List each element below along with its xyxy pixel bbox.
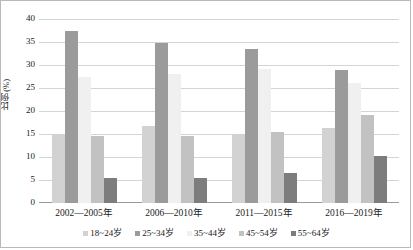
x-tick-label: 2011—2015年 (219, 207, 309, 219)
bar (181, 136, 194, 203)
x-tick-label: 2016—2019年 (309, 207, 399, 219)
x-tick-label: 2002—2005年 (39, 207, 129, 219)
bar (348, 83, 361, 203)
y-tick-label: 35 (9, 37, 35, 46)
legend-item[interactable]: 25~34岁 (135, 228, 174, 238)
bar (91, 136, 104, 203)
x-tick-label: 2006—2010年 (129, 207, 219, 219)
y-tick-label: 30 (9, 60, 35, 69)
bar-group (129, 19, 219, 203)
legend-swatch-icon (291, 231, 296, 236)
bar (65, 31, 78, 204)
x-axis-tick-labels: 2002—2005年2006—2010年2011—2015年2016—2019年 (39, 207, 399, 223)
legend-label: 25~34岁 (142, 228, 174, 238)
legend-label: 18~24岁 (90, 228, 122, 238)
bar (194, 178, 207, 203)
legend-swatch-icon (83, 231, 88, 236)
chart-legend: 18~24岁25~34岁35~44岁45~54岁55~64岁 (1, 228, 412, 238)
bar (258, 69, 271, 203)
plot-area (39, 19, 399, 203)
bar (104, 178, 117, 203)
legend-swatch-icon (239, 231, 244, 236)
bar (271, 132, 284, 203)
y-tick-label: 40 (9, 14, 35, 23)
bar-chart: 比例(%) 0510152025303540 2002—2005年2006—20… (0, 0, 411, 248)
legend-item[interactable]: 18~24岁 (83, 228, 122, 238)
legend-label: 35~44岁 (194, 228, 226, 238)
bar (78, 77, 91, 203)
bar (361, 115, 374, 203)
legend-item[interactable]: 45~54岁 (239, 228, 278, 238)
bar-group (219, 19, 309, 203)
bar (284, 173, 297, 203)
y-tick-label: 15 (9, 129, 35, 138)
y-tick-label: 0 (9, 198, 35, 207)
y-tick-label: 10 (9, 152, 35, 161)
y-tick-label: 20 (9, 106, 35, 115)
bar-group (309, 19, 399, 203)
y-tick-label: 5 (9, 175, 35, 184)
legend-swatch-icon (135, 231, 140, 236)
bar (168, 74, 181, 203)
bar (52, 134, 65, 203)
legend-swatch-icon (187, 231, 192, 236)
y-tick-label: 25 (9, 83, 35, 92)
bar (142, 126, 155, 203)
bar (322, 128, 335, 203)
bar (374, 156, 387, 203)
bar (335, 70, 348, 203)
bar (232, 134, 245, 203)
bar-group (39, 19, 129, 203)
bar (155, 43, 168, 203)
bar (245, 49, 258, 203)
legend-item[interactable]: 35~44岁 (187, 228, 226, 238)
legend-label: 45~54岁 (246, 228, 278, 238)
legend-label: 55~64岁 (298, 228, 330, 238)
y-axis-tick-labels: 0510152025303540 (7, 19, 35, 203)
legend-item[interactable]: 55~64岁 (291, 228, 330, 238)
